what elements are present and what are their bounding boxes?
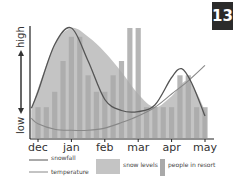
legend-label-people-in-resort: people in resort — [168, 161, 216, 169]
month-label-mar: mar — [127, 141, 149, 154]
people-bar — [69, 37, 74, 138]
ski-resort-chart: high low decjanfebmaraprmay snowfall tem… — [0, 0, 233, 190]
month-label-jan: jan — [62, 141, 80, 154]
legend-label-snowfall: snowfall — [51, 154, 76, 161]
low-high-arrow-icon — [18, 50, 24, 114]
y-axis-high-label: high — [15, 26, 26, 48]
x-axis-labels: decjanfebmaraprmay — [28, 141, 217, 154]
month-label-dec: dec — [28, 141, 48, 154]
legend: snowfall temperature snow levels people … — [29, 154, 216, 176]
people-bar — [44, 107, 49, 138]
people-bar — [136, 28, 141, 138]
month-label-feb: feb — [96, 141, 114, 154]
people-bar — [194, 107, 199, 138]
legend-item-snow-levels: snow levels — [96, 159, 158, 174]
people-bar — [161, 107, 166, 138]
legend-item-snowfall: snowfall — [29, 154, 76, 161]
people-bar — [94, 92, 99, 138]
people-bar — [169, 107, 174, 138]
legend-item-people-in-resort: people in resort — [160, 159, 216, 176]
people-bar — [177, 75, 182, 138]
y-axis-low-label: low — [15, 117, 26, 134]
month-label-apr: apr — [162, 141, 181, 154]
people-in-resort-swatch — [160, 159, 165, 176]
people-bar — [152, 107, 157, 138]
people-bar — [186, 75, 191, 138]
snow-levels-swatch — [96, 159, 120, 174]
people-bar — [86, 75, 91, 138]
legend-label-temperature: temperature — [51, 168, 89, 176]
month-label-may: may — [193, 141, 217, 154]
people-bar — [127, 28, 132, 138]
people-bar — [52, 92, 57, 138]
legend-label-snow-levels: snow levels — [123, 161, 158, 168]
people-bar — [77, 37, 82, 138]
legend-item-temperature: temperature — [29, 168, 89, 176]
people-bar — [60, 61, 65, 138]
people-bar — [119, 61, 124, 138]
